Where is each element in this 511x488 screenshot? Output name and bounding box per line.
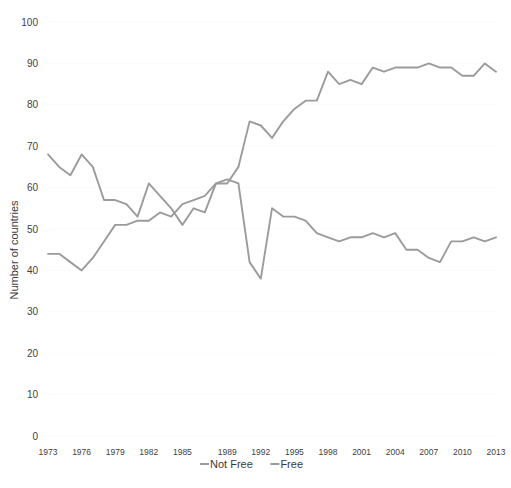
x-axis-tick-label: 1992 [251, 447, 270, 457]
chart-container: 0102030405060708090100 19731976197919821… [0, 0, 511, 488]
x-axis-tick-label: 2010 [453, 447, 472, 457]
x-axis-tick-label: 2004 [386, 447, 405, 457]
y-axis-tick-label: 80 [27, 99, 39, 110]
x-axis-tick-label: 2001 [352, 447, 371, 457]
y-axis-tick-label: 100 [21, 17, 38, 28]
x-axis-tick-label: 1973 [39, 447, 58, 457]
y-axis-tick-label: 30 [27, 306, 39, 317]
legend-label-free: Free [280, 458, 303, 470]
x-axis-tick-label: 2007 [419, 447, 438, 457]
y-axis-tick-label: 20 [27, 348, 39, 359]
line-chart: 0102030405060708090100 19731976197919821… [0, 0, 511, 488]
y-axis-tick-label: 0 [32, 431, 38, 442]
y-axis-tick-label: 50 [27, 224, 39, 235]
x-axis-tick-label: 1995 [285, 447, 304, 457]
x-axis-tick-label: 1985 [173, 447, 192, 457]
chart-background [0, 0, 511, 488]
x-axis-tick-label: 1989 [218, 447, 237, 457]
x-axis-tick-label: 1998 [319, 447, 338, 457]
x-axis-tick-label: 1979 [106, 447, 125, 457]
legend-label-not-free: Not Free [210, 458, 253, 470]
chart-legend: Not FreeFree [200, 458, 303, 470]
y-axis-tick-label: 90 [27, 58, 39, 69]
x-axis-tick-label: 2013 [487, 447, 506, 457]
x-axis-tick-label: 1976 [72, 447, 91, 457]
y-axis-tick-label: 60 [27, 182, 39, 193]
y-axis-tick-label: 10 [27, 389, 39, 400]
y-axis-tick-label: 40 [27, 265, 39, 276]
x-axis-tick-label: 1982 [139, 447, 158, 457]
y-axis-title: Number of countries [8, 200, 20, 300]
y-axis-tick-label: 70 [27, 141, 39, 152]
